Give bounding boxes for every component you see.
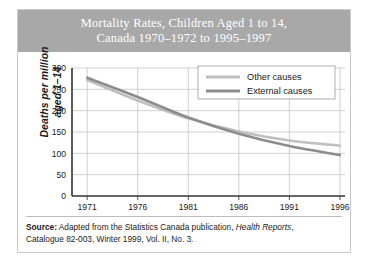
svg-text:100: 100 <box>52 149 67 159</box>
svg-text:1996: 1996 <box>330 202 349 212</box>
chart-title-line-1: Mortality Rates, Children Aged 1 to 14, <box>18 16 350 31</box>
svg-text:Other causes: Other causes <box>247 72 302 82</box>
source-label: Source: <box>26 222 57 232</box>
source-line-2: Catalogue 82-003, Winter 1999, Vol. II, … <box>26 234 344 246</box>
plot-area: Deaths per million aged 1–14 05010015020… <box>18 52 350 212</box>
svg-text:200: 200 <box>52 106 67 116</box>
svg-text:150: 150 <box>52 127 67 137</box>
svg-text:1986: 1986 <box>229 202 248 212</box>
svg-text:1981: 1981 <box>179 202 198 212</box>
svg-text:External causes: External causes <box>247 86 313 96</box>
svg-text:1976: 1976 <box>128 202 147 212</box>
source-text-1: Adapted from the Statistics Canada publi… <box>57 222 236 232</box>
svg-text:250: 250 <box>52 85 67 95</box>
chart-legend: Other causesExternal causes <box>198 66 335 99</box>
source-publication: Health Reports <box>236 222 291 232</box>
y-tick-labels: 050100150200250300 <box>52 63 67 201</box>
svg-text:1971: 1971 <box>78 202 97 212</box>
svg-text:300: 300 <box>52 63 67 73</box>
source-text-2: , <box>291 222 293 232</box>
chart-figure: Mortality Rates, Children Aged 1 to 14, … <box>0 0 367 262</box>
x-tick-labels: 197119761981198619911996 <box>78 202 350 212</box>
svg-text:0: 0 <box>61 191 66 201</box>
source-divider <box>26 216 342 217</box>
svg-text:1991: 1991 <box>280 202 299 212</box>
source-note: Source: Adapted from the Statistics Cana… <box>26 222 344 245</box>
line-chart-svg: 050100150200250300 197119761981198619911… <box>18 52 350 212</box>
svg-text:50: 50 <box>56 170 66 180</box>
